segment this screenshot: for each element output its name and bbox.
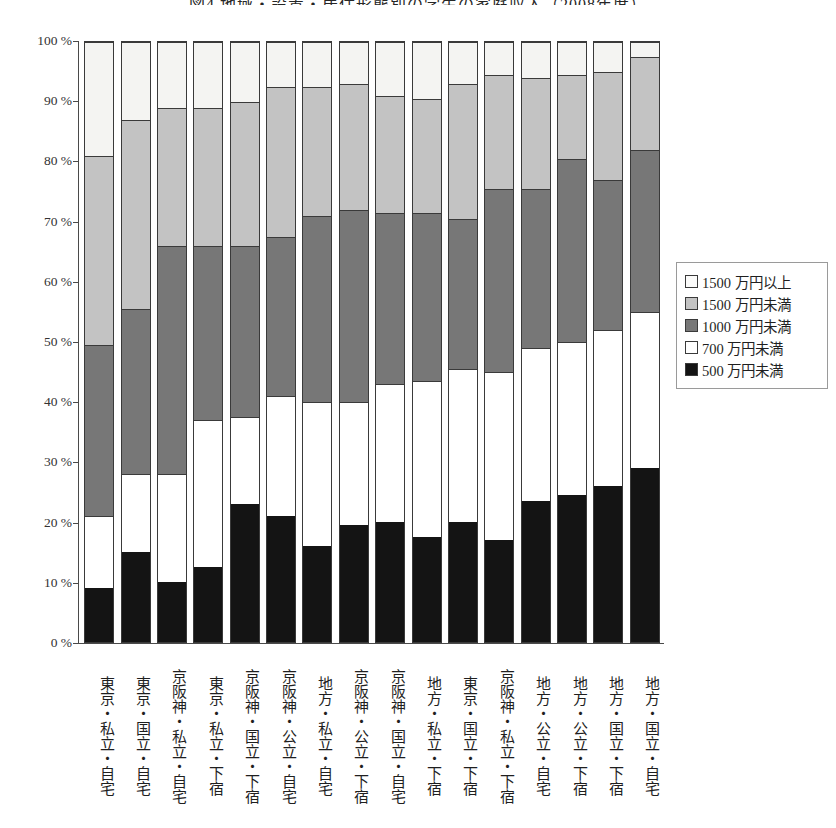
- legend-swatch-icon: [685, 297, 698, 310]
- bar-segment-1000万円未満: [85, 345, 113, 516]
- bar-segment-1500万円未満: [340, 84, 368, 210]
- bar-segment-1500万円未満: [413, 99, 441, 213]
- bar-segment-1000万円未満: [449, 219, 477, 369]
- bar-segment-1500万円未満: [485, 75, 513, 189]
- bar-segment-1500万円以上: [485, 42, 513, 75]
- bar-segment-700万円未満: [158, 474, 186, 582]
- bar-segment-700万円未満: [522, 348, 550, 501]
- bar-segment-1500万円以上: [267, 42, 295, 87]
- bar-segment-700万円未満: [194, 420, 222, 567]
- bar-segment-700万円未満: [231, 417, 259, 504]
- legend-item-under500[interactable]: 500 万円未満: [685, 358, 819, 380]
- bar-segment-700万円未満: [122, 474, 150, 552]
- x-axis-label-2: 東京・国立・自宅: [120, 650, 150, 822]
- bar-1[interactable]: [84, 41, 114, 643]
- bar-4[interactable]: [193, 41, 223, 643]
- bar-segment-500万円未満: [158, 582, 186, 642]
- bar-11[interactable]: [448, 41, 478, 643]
- bar-2[interactable]: [121, 41, 151, 643]
- bar-segment-500万円未満: [340, 525, 368, 642]
- bar-8[interactable]: [339, 41, 369, 643]
- chart-legend: 1500 万円以上1500 万円未満1000 万円未満700 万円未満500 万…: [676, 262, 828, 389]
- bar-segment-1500万円以上: [158, 42, 186, 108]
- bar-segment-700万円未満: [267, 396, 295, 516]
- bar-segment-1500万円以上: [340, 42, 368, 84]
- legend-swatch-icon: [685, 319, 698, 332]
- bar-segment-1000万円未満: [485, 189, 513, 372]
- legend-item-label: 1000 万円未満: [702, 315, 791, 336]
- bar-segment-700万円未満: [558, 342, 586, 495]
- bar-segment-1500万円未満: [85, 156, 113, 345]
- bar-7[interactable]: [302, 41, 332, 643]
- legend-item-under1500[interactable]: 1500 万円未満: [685, 292, 819, 314]
- bar-segment-1500万円未満: [303, 87, 331, 216]
- bar-segment-500万円未満: [522, 501, 550, 642]
- bar-segment-500万円未満: [122, 552, 150, 642]
- legend-swatch-icon: [685, 363, 698, 376]
- bar-segment-1000万円未満: [558, 159, 586, 342]
- bar-segment-500万円未満: [303, 546, 331, 642]
- bar-segment-700万円未満: [340, 402, 368, 525]
- bar-segment-1000万円未満: [522, 189, 550, 348]
- x-axis-label-10: 地方・私立・下宿: [411, 650, 441, 822]
- legend-item-over1500[interactable]: 1500 万円以上: [685, 270, 819, 292]
- bar-segment-1500万円以上: [558, 42, 586, 75]
- x-axis-label-16: 地方・国立・自宅: [629, 650, 659, 822]
- chart-figure: 図4 地域・設置・居住形態別の学生の家庭収入（2008年度） 0 %10 %20…: [0, 0, 836, 828]
- bar-segment-1500万円以上: [231, 42, 259, 102]
- bar-segment-500万円未満: [413, 537, 441, 642]
- bar-5[interactable]: [230, 41, 260, 643]
- bar-segment-700万円未満: [631, 312, 659, 468]
- bar-segment-1000万円未満: [340, 210, 368, 402]
- bar-segment-700万円未満: [85, 516, 113, 588]
- bar-segment-500万円未満: [485, 540, 513, 642]
- bar-segment-1000万円未満: [158, 246, 186, 474]
- bar-segment-1000万円未満: [267, 237, 295, 396]
- bar-segment-1500万円以上: [594, 42, 622, 72]
- plot-area: 0 %10 %20 %30 %40 %50 %60 %70 %80 %90 %1…: [78, 41, 664, 644]
- x-axis-label-14: 地方・公立・下宿: [556, 650, 586, 822]
- bar-segment-1500万円未満: [194, 108, 222, 246]
- bar-segment-1500万円未満: [449, 84, 477, 219]
- bar-15[interactable]: [593, 41, 623, 643]
- bar-13[interactable]: [521, 41, 551, 643]
- bar-10[interactable]: [412, 41, 442, 643]
- bar-segment-700万円未満: [413, 381, 441, 537]
- bar-segment-1500万円未満: [231, 102, 259, 246]
- bar-segment-1500万円未満: [267, 87, 295, 237]
- bar-9[interactable]: [375, 41, 405, 643]
- bar-segment-1500万円以上: [194, 42, 222, 108]
- bar-segment-500万円未満: [558, 495, 586, 642]
- legend-item-label: 500 万円未満: [702, 359, 783, 380]
- bar-3[interactable]: [157, 41, 187, 643]
- bar-segment-1500万円以上: [122, 42, 150, 120]
- x-axis-label-1: 東京・私立・自宅: [83, 650, 113, 822]
- bar-segment-500万円未満: [267, 516, 295, 642]
- bar-12[interactable]: [484, 41, 514, 643]
- x-axis-label-15: 地方・国立・下宿: [592, 650, 622, 822]
- bar-segment-1000万円未満: [231, 246, 259, 417]
- legend-item-under700[interactable]: 700 万円未満: [685, 336, 819, 358]
- bar-segment-1500万円以上: [522, 42, 550, 78]
- x-axis-label-9: 京阪神・国立・自宅: [374, 650, 404, 822]
- bar-6[interactable]: [266, 41, 296, 643]
- bar-segment-700万円未満: [376, 384, 404, 522]
- bar-segment-1500万円未満: [122, 120, 150, 309]
- x-axis-label-7: 地方・私立・自宅: [301, 650, 331, 822]
- x-axis-label-11: 東京・国立・下宿: [447, 650, 477, 822]
- bar-segment-700万円未満: [449, 369, 477, 522]
- bar-segment-1500万円未満: [594, 72, 622, 180]
- legend-item-under1000[interactable]: 1000 万円未満: [685, 314, 819, 336]
- x-axis-label-8: 京阪神・公立・下宿: [338, 650, 368, 822]
- bar-segment-700万円未満: [303, 402, 331, 546]
- legend-item-label: 1500 万円以上: [702, 271, 791, 292]
- bar-segment-1000万円未満: [594, 180, 622, 330]
- bar-segment-500万円未満: [594, 486, 622, 642]
- bar-segment-1500万円未満: [631, 57, 659, 150]
- bar-group: [79, 41, 664, 643]
- bar-14[interactable]: [557, 41, 587, 643]
- x-axis-label-4: 東京・私立・下宿: [192, 650, 222, 822]
- bar-16[interactable]: [630, 41, 660, 643]
- bar-segment-1500万円未満: [376, 96, 404, 213]
- x-axis-label-5: 京阪神・国立・下宿: [229, 650, 259, 822]
